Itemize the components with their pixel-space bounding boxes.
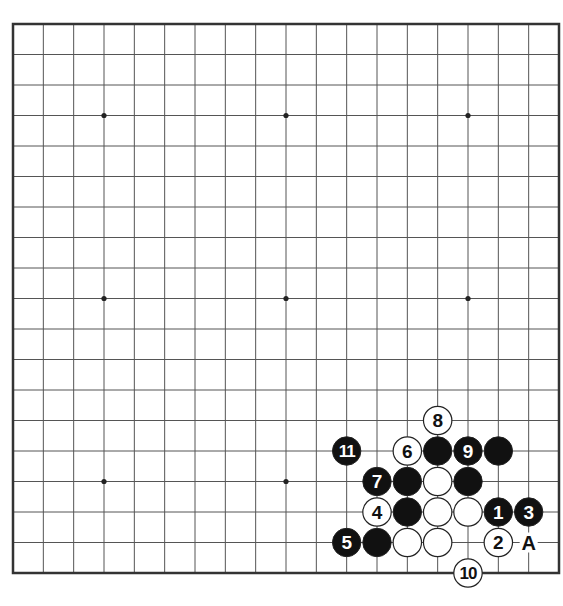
white-stone-icon xyxy=(454,498,482,526)
black-stone-7: 7 xyxy=(363,467,391,495)
star-point-icon xyxy=(101,296,106,301)
go-board-diagram: 1234567891011 A xyxy=(0,0,563,606)
stone-move-number: 3 xyxy=(523,502,534,523)
black-stone xyxy=(393,498,421,526)
white-stone-icon xyxy=(423,528,451,556)
star-point-icon xyxy=(101,479,106,484)
white-stone-icon xyxy=(423,467,451,495)
white-stone xyxy=(423,498,451,526)
black-stone xyxy=(454,467,482,495)
white-stone-10: 10 xyxy=(454,559,482,587)
star-point-icon xyxy=(465,296,470,301)
white-stone-6: 6 xyxy=(393,437,421,465)
black-stone-5: 5 xyxy=(332,528,360,556)
black-stone-3: 3 xyxy=(514,498,542,526)
black-stone xyxy=(363,528,391,556)
stone-move-number: 10 xyxy=(460,564,477,583)
white-stone-2: 2 xyxy=(484,528,512,556)
white-stone-icon xyxy=(423,498,451,526)
white-stone xyxy=(423,467,451,495)
stone-move-number: 8 xyxy=(432,410,443,431)
black-stone-icon xyxy=(393,467,421,495)
stone-move-number: 7 xyxy=(372,471,383,492)
white-stone-8: 8 xyxy=(423,406,451,434)
markers-layer: A xyxy=(520,532,538,554)
stone-move-number: 2 xyxy=(493,532,504,553)
black-stone xyxy=(484,437,512,465)
star-point-icon xyxy=(465,113,470,118)
star-point-icon xyxy=(101,113,106,118)
star-point-icon xyxy=(283,296,288,301)
black-stone-1: 1 xyxy=(484,498,512,526)
stone-move-number: 11 xyxy=(339,442,356,461)
star-point-icon xyxy=(283,479,288,484)
black-stone-icon xyxy=(423,437,451,465)
stone-move-number: 9 xyxy=(463,441,474,462)
stone-move-number: 4 xyxy=(372,502,383,523)
black-stone-icon xyxy=(454,467,482,495)
black-stone-icon xyxy=(363,528,391,556)
black-stone xyxy=(393,467,421,495)
stone-move-number: 6 xyxy=(402,441,413,462)
black-stone-icon xyxy=(484,437,512,465)
black-stone-9: 9 xyxy=(454,437,482,465)
white-stone-icon xyxy=(393,528,421,556)
white-stone xyxy=(423,528,451,556)
white-stone xyxy=(454,498,482,526)
point-marker-label: A xyxy=(521,532,535,554)
stone-move-number: 1 xyxy=(493,502,504,523)
black-stone xyxy=(423,437,451,465)
stone-move-number: 5 xyxy=(341,532,352,553)
star-point-icon xyxy=(283,113,288,118)
white-stone-4: 4 xyxy=(363,498,391,526)
white-stone xyxy=(393,528,421,556)
black-stone-11: 11 xyxy=(332,437,360,465)
black-stone-icon xyxy=(393,498,421,526)
